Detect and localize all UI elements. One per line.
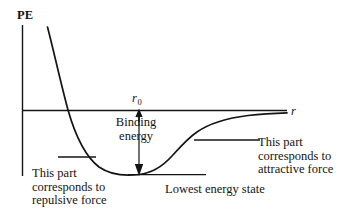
r0-label: r0 — [132, 92, 141, 105]
r0-subscript: 0 — [137, 97, 141, 107]
left-annotation-line-1: This part — [32, 167, 107, 181]
right-annotation-line-2: corresponds to — [258, 150, 333, 164]
left-annotation-line-2: corresponds to — [32, 181, 107, 195]
right-annotation-line-3: attractive force — [258, 163, 333, 177]
potential-energy-curve — [48, 27, 288, 175]
x-axis-label: r — [291, 105, 296, 118]
left-annotation-line-3: repulsive force — [32, 194, 107, 208]
binding-energy-line-2: energy — [110, 130, 162, 144]
binding-energy-line-1: Binding — [110, 116, 162, 130]
figure-canvas: PE r r0 Binding energy This part corresp… — [0, 0, 358, 224]
right-annotation-line-1: This part — [258, 136, 333, 150]
left-annotation: This part corresponds to repulsive force — [32, 167, 107, 208]
binding-energy-label: Binding energy — [110, 116, 162, 143]
lowest-energy-state-label: Lowest energy state — [165, 183, 265, 197]
y-axis-label: PE — [17, 9, 33, 22]
right-annotation: This part corresponds to attractive forc… — [258, 136, 333, 177]
